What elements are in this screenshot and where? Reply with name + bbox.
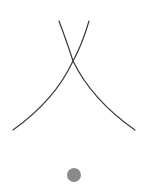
right-curve-icon [73, 21, 135, 130]
figure-canvas [0, 0, 145, 191]
gray-dot-icon [67, 168, 81, 182]
left-curve-icon [13, 21, 73, 130]
